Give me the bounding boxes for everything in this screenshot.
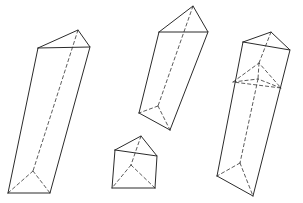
figure-canvas [0,0,303,203]
prisms-drawing [0,0,303,203]
